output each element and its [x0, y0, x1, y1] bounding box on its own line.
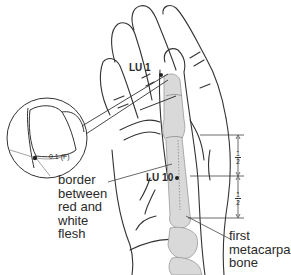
middle-finger-outline	[132, 6, 176, 70]
bone-annotation: first metacarpal bone	[229, 229, 291, 270]
inset-point-dot	[33, 156, 37, 160]
lu1-label: LU 1	[129, 63, 151, 73]
border-annotation: border between red and white flesh	[58, 173, 108, 241]
lu1-point-dot	[159, 73, 163, 77]
palm-left-outline	[112, 150, 133, 275]
lu10-label: LU 10	[146, 173, 173, 183]
inset-measurement-label: 0.1 (F)	[49, 153, 70, 160]
proportion-upper: 12	[234, 150, 242, 165]
inset-circle	[7, 98, 87, 178]
lu10-point-dot	[175, 176, 179, 180]
proportion-lower: 12	[234, 191, 242, 206]
